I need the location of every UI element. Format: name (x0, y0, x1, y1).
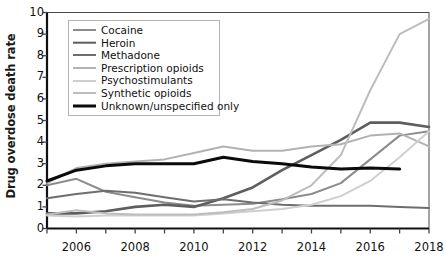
y-axis-tick-label: 1 (28, 201, 44, 213)
x-axis-tick-label: 2006 (62, 240, 91, 254)
legend-item-label: Prescription opioids (101, 63, 204, 74)
legend-item[interactable]: Unknown/unspecified only (73, 100, 214, 113)
y-axis-tick-label: 3 (28, 158, 44, 170)
y-axis-tick-label: 2 (28, 179, 44, 191)
y-axis-title: Drug overdose death rate (4, 33, 18, 198)
legend-line-icon (73, 38, 96, 48)
legend-item[interactable]: Synthetic opioids (73, 87, 214, 100)
x-axis-tick-label: 2014 (297, 240, 326, 254)
y-axis-tick-label: 8 (28, 50, 44, 62)
legend-item[interactable]: Methadone (73, 49, 214, 62)
legend-item-label: Methadone (101, 50, 160, 61)
legend-item[interactable]: Prescription opioids (73, 62, 214, 75)
y-axis-tick-label: 7 (28, 71, 44, 83)
y-axis-tick-label: 5 (28, 115, 44, 127)
legend-item-label: Cocaine (101, 25, 143, 36)
legend-item-label: Heroin (101, 38, 135, 49)
x-axis-tick-label: 2016 (356, 240, 385, 254)
chart-legend: CocaineHeroinMethadonePrescription opioi… (68, 20, 220, 116)
y-axis-tick-label: 9 (28, 28, 44, 40)
legend-item-label: Unknown/unspecified only (101, 101, 239, 112)
x-axis-tick-label: 2012 (238, 240, 267, 254)
y-axis-tick-label: 10 (28, 7, 44, 19)
y-axis-title-container: Drug overdose death rate (0, 0, 22, 232)
legend-line-icon (73, 63, 96, 73)
y-axis-tick-label: 6 (28, 93, 44, 105)
legend-line-icon (73, 25, 96, 35)
legend-item-label: Psychostimulants (101, 75, 193, 86)
x-axis-tick-label: 2010 (179, 240, 208, 254)
y-axis-tick-labels: 012345678910 (24, 0, 44, 232)
legend-item[interactable]: Heroin (73, 37, 214, 50)
x-axis-tick-label: 2008 (121, 240, 150, 254)
legend-line-icon (73, 76, 96, 86)
legend-line-icon (73, 88, 96, 98)
legend-item[interactable]: Psychostimulants (73, 74, 214, 87)
x-axis-tick-labels: 2006200820102012201420162018 (0, 231, 440, 255)
y-axis-tick-label: 4 (28, 136, 44, 148)
legend-line-icon (73, 101, 96, 111)
legend-line-icon (73, 50, 96, 60)
x-axis-tick-label: 2018 (414, 240, 443, 254)
legend-item[interactable]: Cocaine (73, 24, 214, 37)
legend-item-label: Synthetic opioids (101, 88, 191, 99)
